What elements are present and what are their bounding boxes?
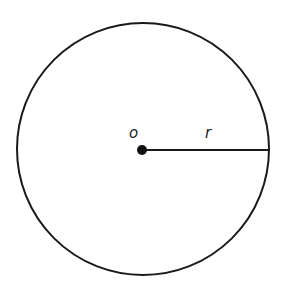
center-label: o [129, 124, 138, 142]
background [0, 0, 287, 287]
circle-diagram: o r [0, 0, 287, 287]
radius-label: r [205, 124, 212, 142]
center-point-dot [137, 145, 147, 155]
